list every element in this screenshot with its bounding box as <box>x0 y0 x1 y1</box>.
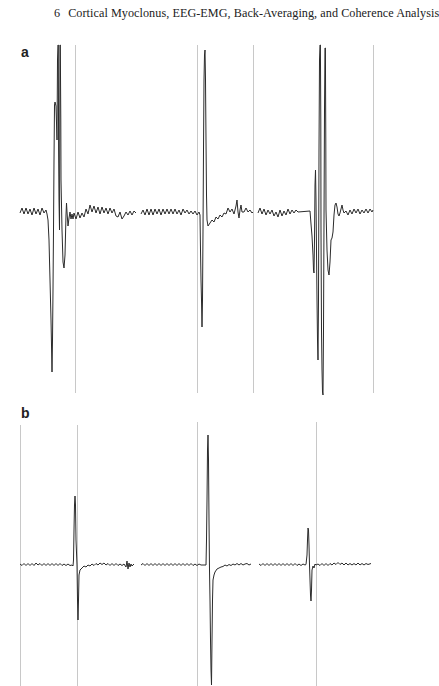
trace <box>258 45 373 395</box>
trace <box>141 435 251 685</box>
trace <box>259 528 371 601</box>
panel-a <box>20 45 374 395</box>
panel-a-marker-lines <box>76 45 374 393</box>
panel-b-traces <box>20 435 371 685</box>
panel-b-marker-lines <box>21 422 317 686</box>
panel-b <box>20 422 371 686</box>
trace <box>20 45 136 372</box>
panel-a-traces <box>20 45 373 395</box>
